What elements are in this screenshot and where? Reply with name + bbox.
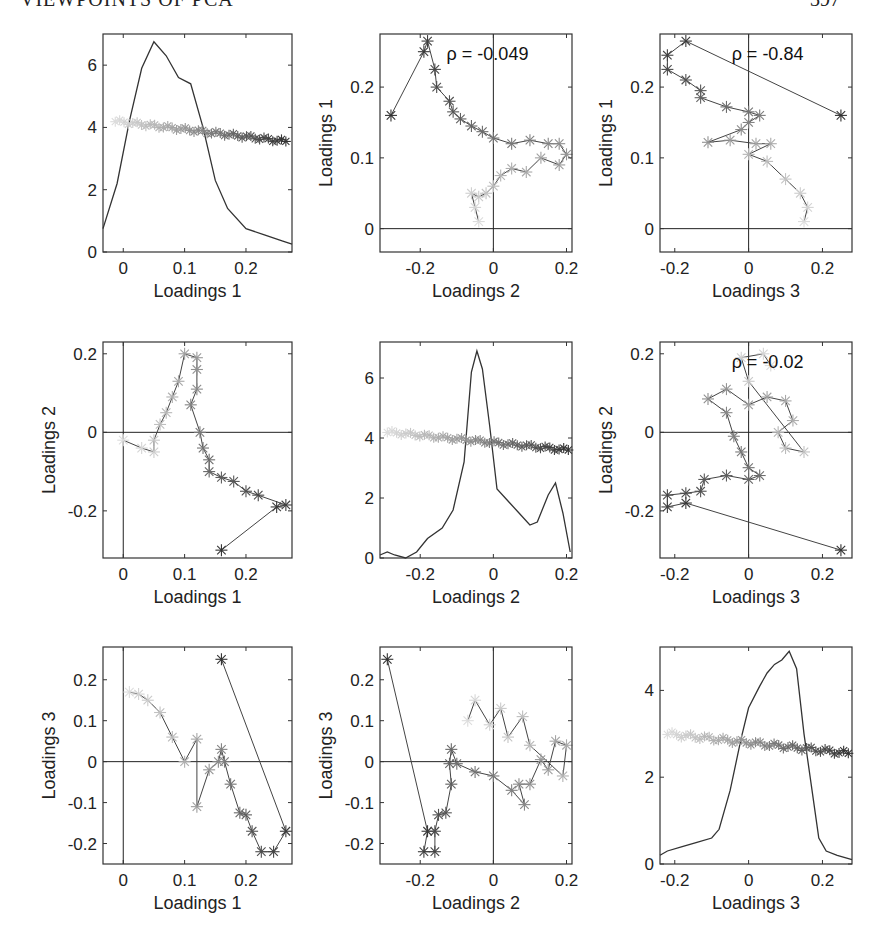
x-tick-label: 0.1 [173, 565, 197, 584]
trajectory-line [387, 659, 566, 851]
panel-p31: 00.10.2-0.2-0.100.10.2Loadings 1Loadings… [103, 647, 292, 864]
x-tick-label: 0 [744, 259, 753, 278]
plot-frame [660, 342, 852, 558]
x-tick-label: 0 [119, 871, 128, 890]
density-curve [103, 42, 292, 244]
y-tick-label: -0.2 [625, 502, 654, 521]
y-tick-label: 0 [645, 423, 654, 442]
x-tick-label: 0.2 [234, 259, 258, 278]
x-axis-label: Loadings 3 [712, 281, 800, 301]
y-tick-label: 2 [88, 181, 97, 200]
x-tick-label: 0.2 [555, 259, 579, 278]
panel-p33: -0.200.2024Loadings 3 [660, 647, 852, 864]
y-tick-label: -0.1 [345, 794, 374, 813]
y-tick-label: 0 [88, 243, 97, 262]
trajectory-line [667, 354, 841, 550]
x-tick-label: 0.1 [173, 259, 197, 278]
y-tick-label: 0.1 [350, 149, 374, 168]
y-tick-label: 4 [88, 118, 97, 137]
x-tick-label: -0.2 [660, 259, 689, 278]
y-tick-label: 0.2 [350, 78, 374, 97]
trajectory-markers [662, 727, 853, 759]
y-tick-label: 6 [365, 369, 374, 388]
y-tick-label: 0.1 [73, 712, 97, 731]
x-tick-label: 0.2 [234, 871, 258, 890]
y-tick-label: 0 [645, 855, 654, 874]
trajectory-markers [123, 653, 291, 857]
x-tick-label: 0 [744, 565, 753, 584]
panel-p11: 00.10.20246Loadings 1 [103, 34, 292, 252]
y-tick-label: -0.2 [68, 835, 97, 854]
x-axis-label: Loadings 2 [432, 587, 520, 607]
y-tick-label: 0.2 [73, 345, 97, 364]
density-curve [660, 651, 852, 859]
x-axis-label: Loadings 2 [432, 893, 520, 913]
correlation-label: ρ = -0.02 [732, 352, 804, 372]
x-tick-label: -0.2 [660, 565, 689, 584]
y-tick-label: 4 [365, 429, 374, 448]
y-tick-label: -0.1 [68, 794, 97, 813]
x-axis-label: Loadings 2 [432, 281, 520, 301]
y-tick-label: -0.2 [68, 502, 97, 521]
x-axis-label: Loadings 1 [153, 281, 241, 301]
x-tick-label: 0 [119, 565, 128, 584]
y-tick-label: 0.2 [350, 671, 374, 690]
trajectory-line [667, 41, 841, 222]
x-tick-label: 0 [489, 871, 498, 890]
y-tick-label: 0 [88, 423, 97, 442]
y-tick-label: 2 [365, 489, 374, 508]
y-axis-label: Loadings 2 [39, 406, 59, 494]
trajectory-line [123, 354, 286, 550]
panel-p23: -0.200.2-0.200.2Loadings 3Loadings 2ρ = … [660, 342, 852, 558]
x-tick-label: -0.2 [406, 871, 435, 890]
x-tick-label: 0.1 [173, 871, 197, 890]
plot-frame [380, 342, 572, 558]
y-tick-label: 0.2 [73, 671, 97, 690]
x-tick-label: -0.2 [406, 565, 435, 584]
page-number: 397 [810, 0, 840, 11]
plot-frame [660, 647, 852, 864]
density-curve [380, 351, 570, 558]
x-tick-label: 0 [489, 565, 498, 584]
trajectory-line [129, 659, 286, 851]
x-tick-label: 0 [744, 871, 753, 890]
x-axis-label: Loadings 3 [712, 587, 800, 607]
plot-frame [380, 647, 572, 864]
y-axis-label: Loadings 1 [316, 99, 336, 187]
y-tick-label: 0 [88, 753, 97, 772]
x-tick-label: 0 [119, 259, 128, 278]
x-tick-label: 0 [489, 259, 498, 278]
plot-frame [103, 647, 292, 864]
y-tick-label: 0 [365, 220, 374, 239]
y-axis-label: Loadings 2 [596, 406, 616, 494]
y-tick-label: 0.1 [630, 149, 654, 168]
x-tick-label: 0.2 [811, 565, 835, 584]
y-tick-label: 0.2 [630, 78, 654, 97]
correlation-label: ρ = -0.84 [732, 44, 804, 64]
x-tick-label: 0.2 [555, 565, 579, 584]
trajectory-markers [661, 348, 847, 556]
y-tick-label: -0.2 [345, 835, 374, 854]
x-tick-label: 0.2 [811, 871, 835, 890]
panel-p22: -0.200.20246Loadings 2 [380, 342, 572, 558]
x-axis-label: Loadings 1 [153, 893, 241, 913]
panel-p12: -0.200.200.10.2Loadings 2Loadings 1ρ = -… [380, 34, 572, 252]
y-tick-label: 0 [645, 220, 654, 239]
y-tick-label: 0 [365, 549, 374, 568]
y-tick-label: 0 [365, 753, 374, 772]
panel-p32: -0.200.2-0.2-0.100.10.2Loadings 2Loading… [380, 647, 572, 864]
y-axis-label: Loadings 3 [316, 711, 336, 799]
y-tick-label: 2 [645, 768, 654, 787]
x-axis-label: Loadings 1 [153, 587, 241, 607]
plot-frame [103, 34, 292, 252]
trajectory-markers [382, 426, 573, 455]
x-tick-label: 0.2 [234, 565, 258, 584]
x-tick-label: -0.2 [660, 871, 689, 890]
x-tick-label: 0.2 [811, 259, 835, 278]
panel-p13: -0.200.200.10.2Loadings 3Loadings 1ρ = -… [660, 34, 852, 252]
x-axis-label: Loadings 3 [712, 893, 800, 913]
y-tick-label: 0.2 [630, 345, 654, 364]
x-tick-label: 0.2 [555, 871, 579, 890]
x-tick-label: -0.2 [406, 259, 435, 278]
plot-frame [103, 342, 292, 558]
